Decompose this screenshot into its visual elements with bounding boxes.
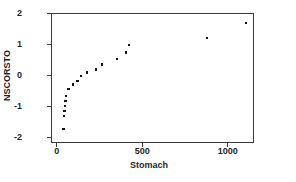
scatter-point bbox=[64, 105, 66, 107]
y-tick-mark bbox=[47, 137, 51, 138]
scatter-point bbox=[62, 128, 64, 130]
x-axis-title: Stomach bbox=[99, 160, 199, 170]
x-tick-label: 0 bbox=[37, 147, 77, 156]
scatter-point bbox=[116, 58, 118, 60]
scatter-point bbox=[245, 22, 247, 24]
plot-frame bbox=[51, 13, 254, 143]
scatter-point bbox=[125, 51, 127, 53]
y-tick-label: -1 bbox=[0, 102, 22, 111]
x-tick-label: 500 bbox=[122, 147, 162, 156]
scatter-point bbox=[64, 100, 66, 102]
scatter-point bbox=[76, 80, 78, 82]
y-tick-label: -2 bbox=[0, 133, 22, 142]
scatter-point bbox=[80, 75, 82, 77]
y-tick-label: 2 bbox=[0, 9, 22, 18]
y-tick-label: 1 bbox=[0, 40, 22, 49]
scatter-point bbox=[95, 68, 97, 70]
y-tick-mark bbox=[47, 106, 51, 107]
y-tick-label: 0 bbox=[0, 71, 22, 80]
scatter-point bbox=[72, 83, 74, 85]
scatter-point bbox=[63, 110, 65, 112]
scatter-point bbox=[128, 44, 130, 46]
y-tick-mark bbox=[47, 13, 51, 14]
scatter-point bbox=[67, 88, 69, 90]
scatter-point bbox=[86, 71, 88, 73]
y-tick-mark bbox=[47, 44, 51, 45]
x-tick-label: 1000 bbox=[208, 147, 248, 156]
scatter-point bbox=[63, 115, 65, 117]
scatter-point bbox=[206, 37, 208, 39]
scatter-plot-figure: NSCORSTO 210-1-205001000 Stomach bbox=[0, 0, 296, 182]
scatter-point bbox=[65, 95, 67, 97]
y-tick-mark bbox=[47, 75, 51, 76]
scatter-point bbox=[101, 63, 103, 65]
